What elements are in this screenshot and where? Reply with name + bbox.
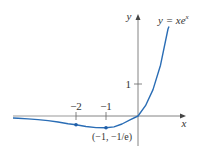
curve-xex <box>13 27 169 128</box>
tick-label-x-m1: −1 <box>100 100 112 112</box>
tick-label-y-1: 1 <box>126 78 132 90</box>
x-axis-label: x <box>181 117 187 129</box>
function-label-base: y = xe <box>157 14 186 26</box>
chart: −2 −1 1 x y (−1, −1/e) y = xex <box>0 0 197 157</box>
min-point-label: (−1, −1/e) <box>92 131 132 143</box>
function-label: y = xex <box>157 13 190 26</box>
function-label-exp: x <box>185 13 190 21</box>
y-axis-arrow-icon <box>136 14 141 20</box>
y-axis-label: y <box>126 10 132 22</box>
point-min <box>104 126 108 130</box>
point-x-m2 <box>74 123 78 127</box>
tick-label-x-m2: −2 <box>70 100 82 112</box>
